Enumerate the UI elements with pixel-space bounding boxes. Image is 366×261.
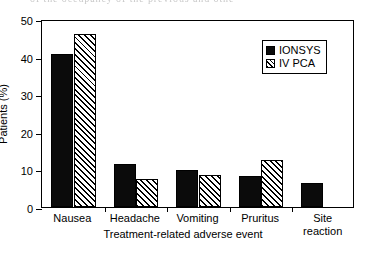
- y-tick-mark: [36, 171, 42, 172]
- bar-ionsys-headache: [114, 164, 136, 207]
- x-category-label-nausea: Nausea: [41, 212, 104, 225]
- y-tick-mark: [36, 21, 42, 22]
- bar-ionsys-site-reaction: [301, 183, 323, 207]
- legend-swatch-hatch-icon: [266, 59, 275, 68]
- y-tick-mark: [36, 96, 42, 97]
- y-tick-label: 20: [21, 128, 33, 139]
- bar-iv-pca-pruritus: [261, 160, 283, 207]
- bar-ionsys-pruritus: [239, 176, 261, 207]
- bar-iv-pca-vomiting: [199, 175, 221, 207]
- y-tick-label: 40: [21, 53, 33, 64]
- y-tick-mark: [36, 59, 42, 60]
- legend-entry-ionsys: IONSYS: [266, 44, 321, 57]
- x-category-label-pruritus: Pruritus: [229, 212, 292, 225]
- legend-label-iv-pca: IV PCA: [279, 58, 315, 69]
- bar-ionsys-nausea: [51, 54, 73, 207]
- x-axis-title: Treatment-related adverse event: [0, 228, 366, 240]
- bar-ionsys-vomiting: [176, 170, 198, 207]
- legend-label-ionsys: IONSYS: [279, 45, 321, 56]
- bar-iv-pca-nausea: [74, 34, 96, 207]
- y-tick-mark: [36, 134, 42, 135]
- bar-chart-figure: Patients (%) 01020304050 NauseaHeadacheV…: [0, 0, 366, 261]
- y-tick-mark: [36, 209, 42, 210]
- y-axis-title: Patients (%): [0, 84, 9, 144]
- bar-iv-pca-headache: [136, 179, 158, 207]
- x-category-label-headache: Headache: [104, 212, 167, 225]
- legend-swatch-solid-icon: [266, 46, 275, 55]
- legend-entry-iv-pca: IV PCA: [266, 57, 321, 70]
- y-tick-label: 50: [21, 16, 33, 27]
- chart-legend: IONSYS IV PCA: [262, 40, 327, 74]
- y-tick-label: 0: [27, 204, 33, 215]
- y-tick-label: 10: [21, 166, 33, 177]
- y-tick-label: 30: [21, 91, 33, 102]
- x-category-label-vomiting: Vomiting: [166, 212, 229, 225]
